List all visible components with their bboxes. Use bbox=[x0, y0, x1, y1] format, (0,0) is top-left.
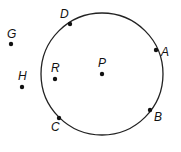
point-b bbox=[148, 108, 152, 112]
point-label-p: P bbox=[98, 56, 106, 70]
point-r bbox=[53, 77, 57, 81]
point-h bbox=[20, 85, 24, 89]
point-d bbox=[68, 22, 72, 26]
point-label-h: H bbox=[18, 69, 27, 83]
point-g bbox=[9, 42, 13, 46]
point-label-g: G bbox=[7, 27, 16, 41]
point-label-r: R bbox=[51, 61, 60, 75]
point-label-b: B bbox=[154, 110, 162, 124]
point-a bbox=[154, 48, 158, 52]
point-p bbox=[100, 72, 104, 76]
point-label-d: D bbox=[60, 7, 69, 21]
point-label-c: C bbox=[51, 120, 60, 134]
circle-diagram: DABCPRGH bbox=[0, 0, 181, 152]
point-label-a: A bbox=[160, 45, 169, 59]
